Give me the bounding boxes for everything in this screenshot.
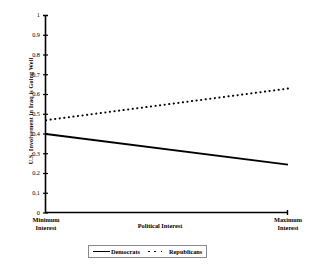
legend-entry-republicans: Republicans [147, 248, 202, 255]
series-line-democrats [46, 134, 288, 165]
x-tick-maximum-line1: Maximum [256, 216, 311, 224]
legend-swatch-solid-line-icon [93, 248, 110, 255]
x-axis-title: Political Interest [110, 222, 210, 229]
x-tick-minimum-line2: Interest [14, 224, 78, 232]
legend-label-democrats: Democrats [110, 248, 140, 255]
x-tick-minimum-line1: Minimum [14, 216, 78, 224]
chart-legend: Democrats Republicans [88, 245, 207, 258]
x-tick-label-minimum: Minimum Interest [14, 216, 78, 232]
legend-label-republicans: Republicans [168, 248, 202, 255]
x-tick-label-maximum: Maximum Interest [256, 216, 311, 232]
x-tick-maximum-line2: Interest [256, 224, 311, 232]
series-line-republicans [46, 89, 288, 121]
legend-swatch-dotted-line-icon [147, 248, 168, 255]
legend-entry-democrats: Democrats [93, 248, 140, 255]
chart-figure: U.S. Involvement in Iraq is Going Well 1… [0, 0, 311, 268]
